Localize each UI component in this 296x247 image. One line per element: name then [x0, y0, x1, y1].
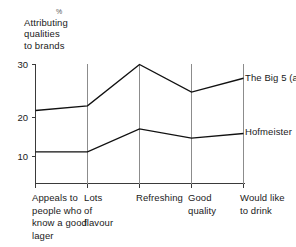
y-tick-label-10: 10 [17, 151, 28, 162]
x-label-3-line-0: Good [188, 192, 244, 205]
x-label-would-like-to-drink: Would like to drink [240, 192, 296, 217]
x-label-3-line-1: quality [188, 205, 244, 218]
x-label-4-line-1: to drink [240, 205, 296, 218]
x-label-lots-of-flavour: Lots of flavour [84, 192, 140, 230]
x-label-4-line-0: Would like [240, 192, 296, 205]
x-label-appeals-to-people-who-know-a-good-lager: Appeals to people who know a good lager [32, 192, 88, 242]
series-label-the-big-5-line-1: The Big 5 [245, 72, 287, 83]
series-label-the-big-5-line-2: (average) [289, 72, 296, 83]
y-tick-label-30: 30 [17, 59, 28, 70]
chart-container: % Attributing qualities to brands 30 20 … [0, 0, 296, 247]
x-label-0-line-1: people who [32, 205, 88, 218]
x-axis-labels: Appeals to people who know a good lager … [0, 192, 296, 247]
x-label-good-quality: Good quality [188, 192, 244, 217]
series-label-the-big-5: The Big 5 (average) [245, 72, 296, 84]
x-label-0-line-2: know a good [32, 217, 88, 230]
x-label-1-line-2: flavour [84, 217, 140, 230]
series-label-hofmeister: Hofmeister [245, 126, 292, 138]
x-label-0-line-0: Appeals to [32, 192, 88, 205]
x-label-0-line-3: lager [32, 230, 88, 243]
y-tick-label-20: 20 [17, 112, 28, 123]
x-label-1-line-0: Lots [84, 192, 140, 205]
x-label-refreshing: Refreshing [136, 192, 194, 205]
series-label-hofmeister-line-1: Hofmeister [245, 126, 292, 137]
x-label-2-line-0: Refreshing [136, 192, 194, 205]
x-label-1-line-1: of [84, 205, 140, 218]
